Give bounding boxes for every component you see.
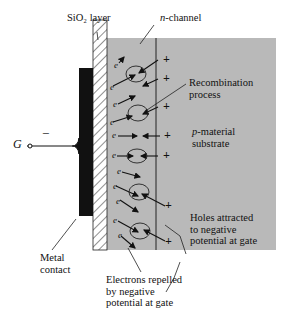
gate-lead: [27, 138, 79, 154]
recombination-label: Recombinationprocess: [189, 77, 253, 100]
holes-label: Holes attractedto negativepotential at g…: [190, 212, 257, 247]
gate-terminal-icon: [28, 144, 32, 148]
substrate-label: p-materialsubstrate: [192, 126, 235, 149]
metal-contact: [79, 68, 93, 216]
gate-polarity: −: [42, 128, 49, 140]
metal-contact-label: Metalcontact: [40, 252, 70, 275]
gate-label: G: [13, 139, 22, 151]
n-channel-label: n-channel: [160, 12, 201, 24]
electrons-label: Electrons repelledby negativepotential a…: [106, 274, 182, 309]
sio2-layer: [93, 20, 107, 250]
sio2-label: SiO₂ layer: [67, 12, 111, 24]
